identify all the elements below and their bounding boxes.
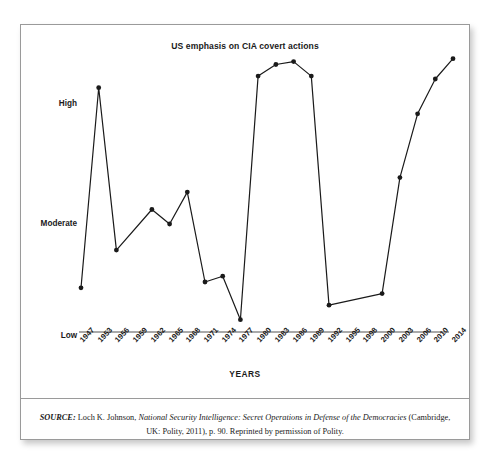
line-chart-plot [21,25,469,398]
data-point-1989 [309,74,314,79]
data-point-1965 [167,222,172,227]
data-point-1974 [220,274,225,279]
data-point-1962 [150,207,155,212]
figure-container: US emphasis on CIA covert actions High M… [20,24,470,440]
caption-work-title: National Security Intelligence: Secret O… [138,413,406,422]
figure-caption: SOURCE: Loch K. Johnson, National Securi… [21,399,469,439]
data-point-1971 [203,280,208,285]
data-point-2014 [451,56,456,61]
data-point-2010 [433,77,438,82]
data-point-1992 [327,303,332,308]
data-point-2000 [380,291,385,296]
x-axis-title: YEARS [21,369,469,379]
data-point-1968 [185,190,190,195]
data-point-1983 [274,62,279,67]
data-markers [79,56,456,322]
data-point-2003 [398,175,403,180]
caption-source-label: SOURCE: [40,413,76,422]
data-point-1947 [79,285,84,290]
data-point-1953 [96,85,101,90]
data-point-2006 [415,111,420,116]
data-point-1986 [291,59,296,64]
caption-author: Loch K. Johnson, [78,413,137,422]
data-point-1956 [114,248,119,253]
data-point-1977 [238,317,243,322]
data-line [81,59,453,320]
chart-panel: US emphasis on CIA covert actions High M… [21,25,469,398]
data-point-1980 [256,74,261,79]
